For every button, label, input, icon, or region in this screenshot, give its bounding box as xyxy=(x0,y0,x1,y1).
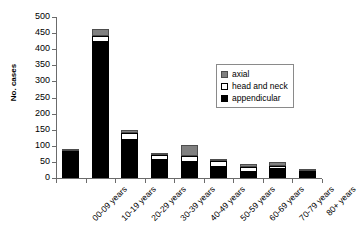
bar-segment-appendicular xyxy=(240,172,257,178)
y-tick-mark xyxy=(52,130,56,131)
y-tick-mark xyxy=(52,49,56,50)
x-tick-mark xyxy=(322,179,323,183)
bar-segment-axial xyxy=(240,164,257,167)
legend-item-axial[interactable]: axial xyxy=(221,68,288,80)
x-axis-line xyxy=(56,178,322,179)
bar-1[interactable] xyxy=(62,151,79,178)
y-tick-mark xyxy=(52,81,56,82)
bar-segment-appendicular xyxy=(299,173,316,178)
y-tick-label: 100 xyxy=(20,140,50,151)
y-tick-label: 500 xyxy=(20,11,50,22)
bar-segment-appendicular xyxy=(121,140,138,178)
bar-segment-axial xyxy=(181,145,198,156)
bar-4[interactable] xyxy=(151,153,168,178)
bar-segment-appendicular xyxy=(92,42,109,178)
head-and-neck-swatch-icon xyxy=(221,83,228,90)
legend-item-head-and-neck[interactable]: head and neck xyxy=(221,80,288,92)
bar-segment-axial xyxy=(299,169,316,171)
x-tick-mark xyxy=(204,179,205,183)
y-tick-mark xyxy=(52,146,56,147)
bar-segment-headneck xyxy=(92,36,109,42)
x-tick-mark xyxy=(86,179,87,183)
x-tick-mark xyxy=(145,179,146,183)
y-tick-label: 250 xyxy=(20,92,50,103)
y-tick-label: 300 xyxy=(20,75,50,86)
axial-swatch-icon xyxy=(221,71,228,78)
bar-segment-appendicular xyxy=(62,153,79,178)
bar-segment-axial xyxy=(269,162,286,166)
y-tick-mark xyxy=(52,65,56,66)
bar-segment-appendicular xyxy=(210,167,227,178)
bar-8[interactable] xyxy=(269,162,286,178)
legend-label: axial xyxy=(232,69,249,79)
legend-label: head and neck xyxy=(232,81,288,91)
bar-2[interactable] xyxy=(92,29,109,178)
bar-3[interactable] xyxy=(121,130,138,178)
y-tick-mark xyxy=(52,114,56,115)
bar-9[interactable] xyxy=(299,169,316,178)
legend-item-appendicular[interactable]: appendicular xyxy=(221,92,288,104)
y-axis-line xyxy=(56,17,57,179)
legend-label: appendicular xyxy=(232,93,281,103)
chart-legend: axialhead and neckappendicular xyxy=(216,64,294,108)
bar-segment-headneck xyxy=(240,167,257,172)
x-tick-mark xyxy=(174,179,175,183)
y-tick-label: 50 xyxy=(20,156,50,167)
y-tick-label: 350 xyxy=(20,59,50,70)
y-tick-label: 200 xyxy=(20,108,50,119)
y-tick-label: 150 xyxy=(20,124,50,135)
bar-segment-appendicular xyxy=(269,169,286,178)
x-tick-mark xyxy=(292,179,293,183)
y-tick-mark xyxy=(52,98,56,99)
bar-segment-appendicular xyxy=(181,162,198,178)
bar-segment-headneck xyxy=(210,161,227,166)
bar-6[interactable] xyxy=(210,159,227,178)
x-tick-mark xyxy=(233,179,234,183)
bar-7[interactable] xyxy=(240,164,257,178)
y-tick-mark xyxy=(52,162,56,163)
x-tick-mark xyxy=(115,179,116,183)
appendicular-swatch-icon xyxy=(221,95,228,102)
bar-segment-axial xyxy=(151,153,168,156)
y-tick-label: 0 xyxy=(20,172,50,183)
bar-segment-axial xyxy=(62,149,79,151)
y-axis-title: No. cases xyxy=(9,48,18,118)
bar-segment-appendicular xyxy=(151,160,168,178)
x-tick-mark xyxy=(263,179,264,183)
bar-segment-headneck xyxy=(299,171,316,173)
bar-segment-headneck xyxy=(121,133,138,140)
y-tick-mark xyxy=(52,17,56,18)
bar-segment-axial xyxy=(92,29,109,36)
bar-segment-headneck xyxy=(151,155,168,160)
bar-segment-headneck xyxy=(269,166,286,169)
x-tick-mark xyxy=(56,179,57,183)
bar-segment-headneck xyxy=(181,156,198,162)
bar-segment-axial xyxy=(121,130,138,133)
bar-5[interactable] xyxy=(181,145,198,178)
y-tick-label: 450 xyxy=(20,27,50,38)
y-tick-label: 400 xyxy=(20,43,50,54)
bar-segment-axial xyxy=(210,159,227,161)
y-tick-mark xyxy=(52,33,56,34)
